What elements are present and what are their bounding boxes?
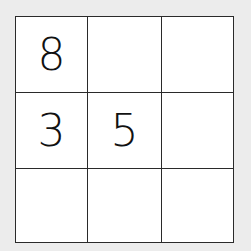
grid-cell-r2-c3[interactable] <box>162 93 233 169</box>
grid-cell-r1-c3[interactable] <box>162 17 233 93</box>
grid-cell-r3-c1[interactable] <box>16 169 88 242</box>
puzzle-grid: 8 3 5 <box>15 16 234 243</box>
grid-cell-r3-c3[interactable] <box>162 169 233 242</box>
grid-cell-r3-c2[interactable] <box>88 169 162 242</box>
grid-cell-r1-c1[interactable]: 8 <box>16 17 88 93</box>
grid-cell-r1-c2[interactable] <box>88 17 162 93</box>
grid-cell-r2-c2[interactable]: 5 <box>88 93 162 169</box>
grid-cell-r2-c1[interactable]: 3 <box>16 93 88 169</box>
